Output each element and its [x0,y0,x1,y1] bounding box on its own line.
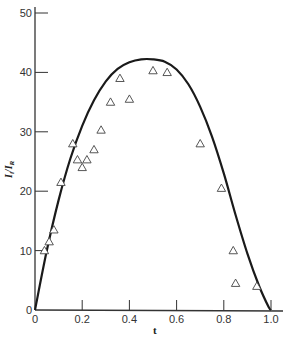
x-tick-label: 0.4 [122,313,137,325]
x-tick-label: 0 [32,313,38,325]
triangle-marker-icon [106,98,114,105]
y-tick-label: 50 [20,7,32,19]
triangle-marker-icon [90,145,98,152]
y-tick-label: 10 [20,245,32,257]
svg-text:Ii/IR: Ii/IR [3,160,16,179]
x-tick-label: 0.8 [216,313,231,325]
y-tick-label: 20 [20,185,32,197]
triangle-marker-icon [125,95,133,102]
triangle-marker-icon [45,237,53,244]
triangle-marker-icon [97,126,105,133]
triangle-marker-icon [78,163,86,170]
triangle-marker-icon [149,66,157,73]
triangle-marker-icon [196,139,204,146]
y-tick-label: 40 [20,66,32,78]
y-tick-label: 30 [20,126,32,138]
x-axis-title: t [153,324,157,336]
x-tick-label: 1.0 [263,313,278,325]
x-tick-label: 0.2 [75,313,90,325]
x-axis-line [35,310,283,311]
x-tick-label: 0.6 [169,313,184,325]
y-tick-label: 0 [26,304,32,316]
axes: 00.20.40.60.81.001020304050 [20,7,283,325]
triangle-marker-icon [83,156,91,163]
triangle-marker-icon [116,74,124,81]
chart: 00.20.40.60.81.001020304050 t Ii/IR [0,0,289,340]
triangle-marker-icon [217,184,225,191]
theory-curve-path [35,59,271,310]
y-axis-title: Ii/IR [3,160,16,179]
triangle-marker-icon [229,246,237,253]
triangle-marker-icon [163,68,171,75]
theory-curve [35,59,271,310]
triangle-marker-icon [73,156,81,163]
data-points [40,66,261,289]
triangle-marker-icon [231,279,239,286]
